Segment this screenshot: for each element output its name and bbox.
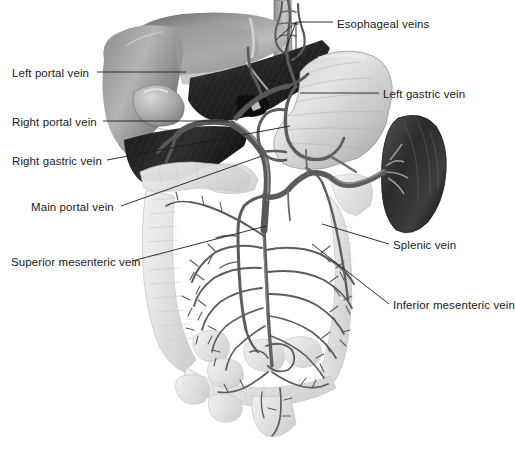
label-superior-mesenteric-vein: Superior mesenteric vein (11, 256, 141, 268)
label-main-portal-vein: Main portal vein (31, 201, 114, 213)
label-right-portal-vein: Right portal vein (12, 116, 97, 128)
label-left-portal-vein: Left portal vein (12, 67, 89, 79)
leader-splenic-vein (322, 224, 389, 244)
label-inferior-mesenteric-vein: Inferior mesenteric vein (393, 299, 515, 311)
label-left-gastric-vein: Left gastric vein (383, 88, 465, 100)
spleen (382, 115, 447, 232)
small-intestine (175, 330, 321, 422)
label-esophageal-veins: Esophageal veins (337, 18, 429, 30)
label-splenic-vein: Splenic vein (393, 239, 456, 251)
label-right-gastric-vein: Right gastric vein (12, 155, 102, 167)
